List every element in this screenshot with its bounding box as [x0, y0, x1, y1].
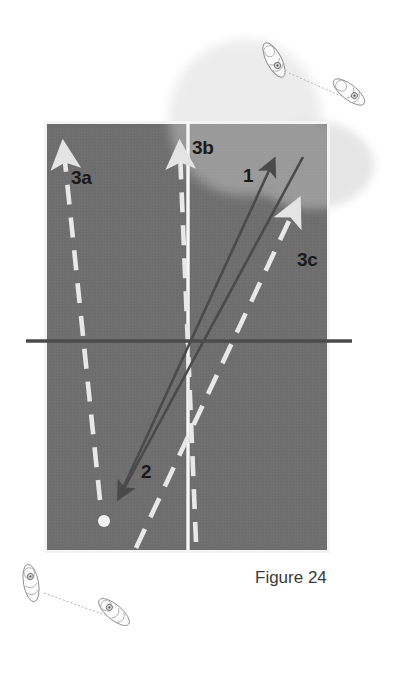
figure-caption: Figure 24	[255, 569, 327, 586]
figure-24-diagram: 3a 3b 3c 1 2 Figure 24	[0, 0, 397, 681]
footwork-connector-bottom	[44, 593, 105, 615]
shoe-sole-icon	[329, 74, 368, 109]
shoe-sole-icon	[95, 594, 134, 630]
label-movement-3c: 3c	[297, 250, 318, 269]
label-shot-1: 1	[243, 166, 253, 185]
tennis-ball	[98, 515, 110, 527]
footwork-pair-bottom	[20, 563, 133, 630]
label-shot-2: 2	[141, 462, 151, 481]
label-movement-3b: 3b	[192, 138, 214, 157]
court-diagram-canvas	[0, 0, 397, 681]
label-movement-3a: 3a	[71, 168, 92, 187]
shoe-sole-icon	[20, 563, 41, 603]
